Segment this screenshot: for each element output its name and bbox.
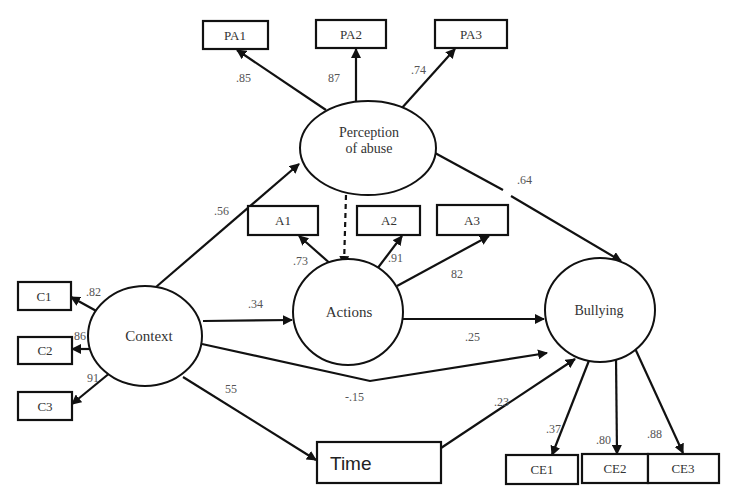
ce1-label: CE1 — [530, 462, 553, 477]
coef-actions-bullying: .25 — [465, 330, 480, 344]
node-ce1: CE1 — [506, 455, 578, 484]
edge-perception-actions-dashed — [344, 195, 346, 265]
edge-actions-a3 — [397, 236, 489, 286]
time-label: Time — [330, 453, 372, 474]
coef-actions-a3: 82 — [451, 267, 463, 281]
coef-actions-a1: .73 — [293, 254, 308, 268]
coef-actions-a2: .91 — [388, 251, 403, 265]
edge-context-actions — [203, 320, 292, 321]
coef-perception-pa2: 87 — [328, 71, 340, 85]
coef-time-bullying: .23 — [494, 395, 509, 409]
context-label: Context — [125, 328, 173, 344]
coef-context-perception: .56 — [214, 204, 229, 218]
c1-label: C1 — [36, 289, 51, 304]
edge-bullying-ce1 — [552, 358, 590, 455]
perception-label-line1: Perception — [339, 125, 399, 140]
node-pa3: PA3 — [435, 20, 507, 48]
coef-perception-bullying: .64 — [517, 173, 532, 187]
actions-label: Actions — [326, 304, 373, 320]
node-a2: A2 — [357, 206, 420, 235]
node-pa2: PA2 — [316, 20, 386, 48]
edge-bullying-ce2 — [616, 357, 617, 454]
a3-label: A3 — [464, 213, 480, 228]
ce3-label: CE3 — [671, 461, 694, 476]
node-c3: C3 — [18, 392, 72, 420]
node-ce2: CE2 — [582, 454, 648, 483]
node-time: Time — [317, 442, 441, 483]
coef-context-c2: 86 — [74, 329, 86, 343]
node-c2: C2 — [18, 337, 72, 364]
pa1-label: PA1 — [224, 28, 246, 43]
coef-bullying-ce3: .88 — [647, 427, 662, 441]
coef-perception-pa3: .74 — [411, 63, 426, 77]
ce2-label: CE2 — [603, 461, 626, 476]
node-ce3: CE3 — [648, 454, 719, 483]
node-a3: A3 — [437, 205, 508, 235]
node-pa1: PA1 — [203, 21, 268, 49]
node-perception: Perception of abuse — [300, 101, 436, 195]
node-c1: C1 — [18, 282, 71, 310]
node-context: Context — [88, 286, 202, 386]
coef-context-time: 55 — [225, 382, 237, 396]
coef-perception-pa1: .85 — [236, 71, 251, 85]
node-actions: Actions — [293, 259, 403, 365]
c2-label: C2 — [37, 343, 52, 358]
coef-context-actions: .34 — [248, 297, 263, 311]
a2-label: A2 — [381, 213, 397, 228]
node-bullying: Bullying — [545, 258, 655, 362]
a1-label: A1 — [275, 213, 291, 228]
bullying-label: Bullying — [574, 303, 623, 318]
edge-context-time — [183, 377, 316, 460]
coef-context-c1: .82 — [86, 285, 101, 299]
coef-context-c3: 91 — [87, 371, 99, 385]
coef-context-bullying: -.15 — [345, 390, 364, 404]
c3-label: C3 — [37, 399, 52, 414]
edge-perception-bullying-b — [511, 196, 621, 261]
pa3-label: PA3 — [460, 27, 482, 42]
coef-bullying-ce2: .80 — [596, 433, 611, 447]
coef-bullying-ce1: .37 — [546, 422, 561, 436]
pa2-label: PA2 — [340, 27, 362, 42]
sem-diagram: PA1 PA2 PA3 A1 A2 A3 C1 C2 C3 Time CE1 — [0, 0, 737, 502]
edge-perception-bullying-a — [435, 153, 503, 190]
node-a1: A1 — [248, 206, 318, 235]
perception-label-line2: of abuse — [345, 141, 392, 156]
edge-perception-pa3 — [401, 49, 455, 109]
